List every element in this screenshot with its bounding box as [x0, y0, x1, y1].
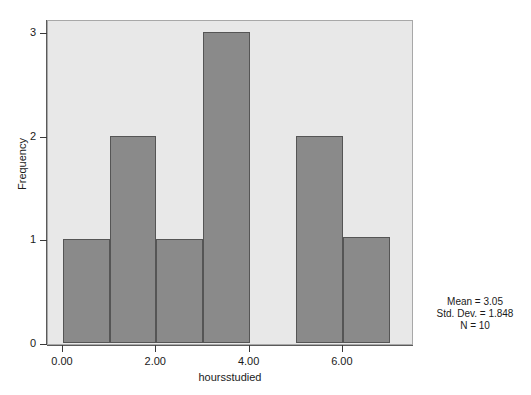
histogram-bar — [63, 239, 110, 343]
x-axis-tick-label: 4.00 — [219, 355, 279, 367]
statistics-annotation: Mean = 3.05 Std. Dev. = 1.848 N = 10 — [423, 296, 527, 332]
y-axis-tick-label: 1 — [6, 234, 36, 245]
x-axis-tick-label: 6.00 — [312, 355, 372, 367]
y-axis-tick — [40, 137, 47, 138]
histogram-chart: 0123 Frequency 0.002.004.006.00 hoursstu… — [0, 0, 531, 395]
histogram-bar — [110, 136, 157, 343]
y-axis-line — [46, 20, 47, 345]
plot-area — [47, 20, 413, 345]
stat-mean: Mean = 3.05 — [423, 296, 527, 308]
y-axis-tick-label: 0 — [6, 338, 36, 349]
y-axis-title: Frequency — [16, 104, 28, 224]
x-axis-title: hoursstudied — [47, 371, 413, 383]
bars-layer — [48, 21, 412, 344]
stat-n: N = 10 — [423, 320, 527, 332]
y-axis-tick — [40, 240, 47, 241]
histogram-bar — [203, 32, 250, 343]
x-axis-tick — [155, 345, 156, 352]
histogram-bar — [156, 239, 203, 343]
x-axis-line — [47, 345, 413, 346]
histogram-bar — [343, 237, 390, 343]
x-axis-tick-label: 0.00 — [32, 355, 92, 367]
y-axis-tick — [40, 33, 47, 34]
y-axis-tick — [40, 344, 47, 345]
x-axis-tick — [62, 345, 63, 352]
x-axis-tick-label: 2.00 — [125, 355, 185, 367]
stat-stddev: Std. Dev. = 1.848 — [423, 308, 527, 320]
x-axis-tick — [249, 345, 250, 352]
x-axis-tick — [342, 345, 343, 352]
y-axis-tick-label: 3 — [6, 27, 36, 38]
histogram-bar — [296, 136, 343, 343]
